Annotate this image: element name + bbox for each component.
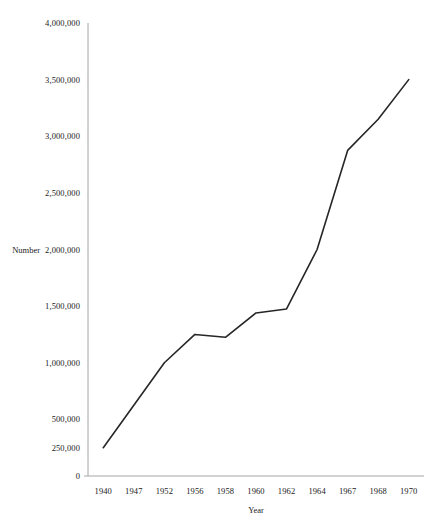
y-tick-label: 4,000,000 [0,18,80,28]
y-tick-label: 1,000,000 [0,358,80,368]
axis-lines [84,23,424,476]
x-tick-label: 1964 [308,486,325,496]
x-tick-label: 1970 [400,486,417,496]
x-tick-label: 1968 [369,486,386,496]
y-tick-label: 0 [0,471,80,481]
y-tick-label: 1,500,000 [0,301,80,311]
x-tick-label: 1947 [125,486,142,496]
x-tick-label: 1967 [339,486,356,496]
y-tick-label: 3,500,000 [0,75,80,85]
y-tick-label: 3,000,000 [0,131,80,141]
x-tick-label: 1962 [278,486,295,496]
line-chart: 0250,000500,0001,000,0001,500,0002,000,0… [0,0,431,526]
y-axis-title: Number [0,245,40,255]
x-tick-label: 1940 [95,486,112,496]
x-tick-label: 1958 [217,486,234,496]
x-tick-label: 1960 [247,486,264,496]
data-series-line [103,80,408,448]
y-tick-label: 500,000 [0,414,80,424]
x-tick-label: 1952 [156,486,173,496]
y-tick-label: 2,500,000 [0,188,80,198]
x-tick-label: 1956 [186,486,203,496]
y-tick-label: 250,000 [0,443,80,453]
x-axis-title: Year [248,505,264,515]
